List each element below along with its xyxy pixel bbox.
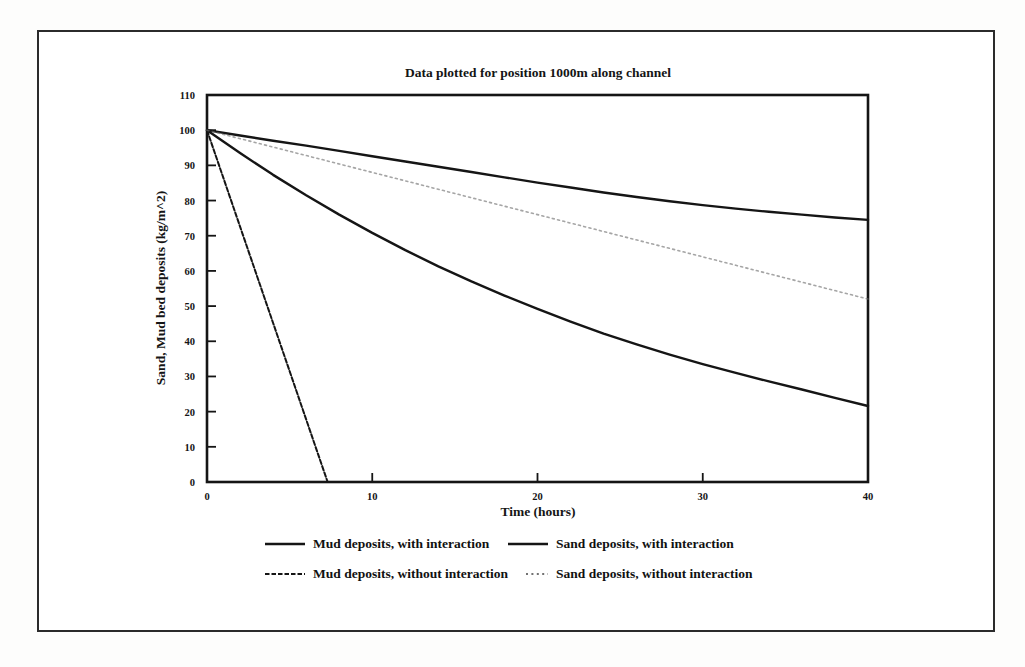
chart-legend: Mud deposits, with interactionSand depos… bbox=[265, 536, 753, 581]
y-tick-label: 110 bbox=[180, 90, 195, 101]
plot-area-frame bbox=[207, 95, 868, 482]
y-axis-label: Sand, Mud bed deposits (kg/m^2) bbox=[153, 191, 168, 385]
figure-container: Data plotted for position 1000m along ch… bbox=[0, 0, 1025, 667]
y-tick-label: 80 bbox=[185, 196, 196, 207]
series-line-2 bbox=[207, 130, 868, 220]
legend-label-1: Mud deposits, with interaction bbox=[313, 536, 490, 551]
x-tick-label: 10 bbox=[367, 491, 378, 502]
x-tick-label: 40 bbox=[863, 491, 874, 502]
y-tick-label: 100 bbox=[179, 125, 195, 136]
y-tick-label: 60 bbox=[185, 266, 196, 277]
series-line-3 bbox=[207, 130, 328, 482]
page-canvas: Data plotted for position 1000m along ch… bbox=[0, 0, 1025, 667]
y-tick-label: 40 bbox=[185, 336, 196, 347]
y-tick-label: 10 bbox=[185, 442, 196, 453]
y-tick-label: 50 bbox=[185, 301, 196, 312]
y-axis-ticks: 0102030405060708090100110 bbox=[179, 90, 216, 488]
x-axis-label: Time (hours) bbox=[500, 504, 575, 519]
y-tick-label: 30 bbox=[185, 371, 196, 382]
chart-title: Data plotted for position 1000m along ch… bbox=[405, 65, 671, 80]
x-tick-label: 30 bbox=[698, 491, 709, 502]
series-line-4 bbox=[207, 130, 868, 299]
legend-label-3: Mud deposits, without interaction bbox=[313, 566, 509, 581]
legend-label-4: Sand deposits, without interaction bbox=[556, 566, 753, 581]
series-line-1 bbox=[207, 130, 868, 406]
data-series-layer bbox=[207, 130, 868, 482]
y-tick-label: 0 bbox=[190, 477, 195, 488]
x-tick-label: 20 bbox=[532, 491, 543, 502]
x-tick-label: 0 bbox=[204, 491, 209, 502]
y-tick-label: 70 bbox=[185, 231, 196, 242]
line-chart: Data plotted for position 1000m along ch… bbox=[0, 0, 1025, 667]
y-tick-label: 90 bbox=[185, 160, 196, 171]
y-tick-label: 20 bbox=[185, 407, 196, 418]
legend-label-2: Sand deposits, with interaction bbox=[556, 536, 734, 551]
x-axis-ticks: 010203040 bbox=[204, 473, 873, 502]
